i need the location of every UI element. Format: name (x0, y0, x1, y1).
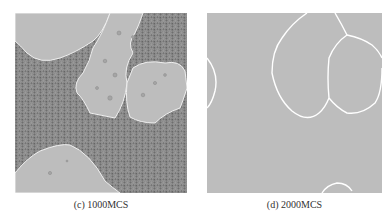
caption-2000mcs: (d) 2000MCS (207, 199, 382, 210)
microstructure-1000mcs (15, 13, 187, 193)
caption-1000mcs: (c) 1000MCS (15, 199, 187, 210)
microstructure-2000mcs (207, 13, 382, 193)
simulation-image-2000mcs (207, 13, 382, 193)
simulation-image-1000mcs (15, 13, 187, 193)
